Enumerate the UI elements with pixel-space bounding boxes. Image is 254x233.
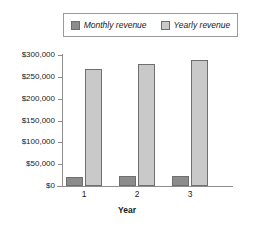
bar-monthly-revenue [66, 177, 83, 186]
bar-yearly-revenue [138, 64, 155, 186]
y-axis-tick-label: $300,000 [22, 51, 55, 59]
y-axis-tick-label: $250,000 [22, 73, 55, 81]
x-axis-title: Year [0, 206, 254, 215]
bar-chart: Monthly revenue Yearly revenue $0$50,000… [0, 0, 254, 233]
bar-monthly-revenue [172, 176, 189, 186]
bar-monthly-revenue [119, 176, 136, 186]
y-axis-tick [58, 186, 63, 187]
bar-yearly-revenue [191, 60, 208, 186]
legend-item-monthly-revenue: Monthly revenue [71, 21, 147, 30]
bar-group [66, 55, 102, 186]
bar-group [119, 55, 155, 186]
legend-swatch-yearly-icon [161, 21, 170, 30]
x-axis-tick-label: 2 [125, 190, 149, 199]
y-axis-tick-label: $0 [46, 182, 55, 190]
chart-legend: Monthly revenue Yearly revenue [63, 13, 238, 37]
y-axis-tick-label: $100,000 [22, 138, 55, 146]
bar-yearly-revenue [85, 69, 102, 186]
legend-label-monthly: Monthly revenue [84, 21, 147, 30]
x-axis-line [57, 186, 233, 187]
legend-swatch-monthly-icon [71, 21, 80, 30]
bar-group [172, 55, 208, 186]
x-axis-tick-label: 3 [178, 190, 202, 199]
y-axis-labels: $0$50,000$100,000$150,000$200,000$250,00… [0, 0, 55, 233]
y-axis-tick-label: $200,000 [22, 95, 55, 103]
plot-area [63, 55, 232, 186]
x-axis-tick-label: 1 [72, 190, 96, 199]
y-axis-tick-label: $150,000 [22, 117, 55, 125]
legend-item-yearly-revenue: Yearly revenue [161, 21, 231, 30]
y-axis-tick-label: $50,000 [26, 160, 55, 168]
legend-label-yearly: Yearly revenue [174, 21, 231, 30]
